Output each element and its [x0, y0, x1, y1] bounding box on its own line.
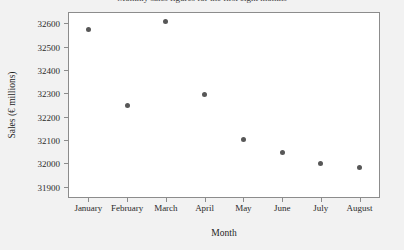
y-axis-tick: 32100: [64, 140, 69, 141]
data-point: [241, 137, 246, 142]
x-axis-tick-label: April: [195, 203, 214, 213]
plot-area: 3190032000321003220032300324003250032600…: [69, 13, 379, 197]
x-axis-tick-label: January: [74, 203, 102, 213]
x-axis-tick: [360, 197, 361, 202]
x-axis-tick-label: June: [274, 203, 291, 213]
data-point: [163, 19, 168, 24]
y-axis-tick-label: 31900: [38, 183, 61, 193]
x-axis-tick-label: August: [347, 203, 373, 213]
y-axis-title: Sales (€ millions): [7, 71, 17, 138]
x-axis-tick-label: March: [154, 203, 178, 213]
y-axis-tick-label: 32100: [38, 136, 61, 146]
data-point: [125, 103, 130, 108]
y-axis-tick-label: 32300: [38, 89, 61, 99]
x-axis-tick: [321, 197, 322, 202]
x-axis-tick: [205, 197, 206, 202]
x-axis-tick: [88, 197, 89, 202]
chart-title: Monthly sales figures for the first eigh…: [0, 0, 404, 3]
y-axis-tick-label: 32000: [38, 159, 61, 169]
scatter-chart: Monthly sales figures for the first eigh…: [0, 0, 404, 250]
x-axis-tick: [166, 197, 167, 202]
y-axis-tick-label: 32500: [38, 43, 61, 53]
y-axis-tick: 31900: [64, 187, 69, 188]
y-axis-tick-label: 32600: [38, 19, 61, 29]
y-axis-tick: 32500: [64, 47, 69, 48]
data-point: [86, 27, 91, 32]
x-axis-tick-label: July: [313, 203, 328, 213]
y-axis-tick: 32000: [64, 163, 69, 164]
x-axis-tick: [282, 197, 283, 202]
data-point: [202, 92, 207, 97]
data-point: [357, 165, 362, 170]
x-axis-tick-label: May: [235, 203, 252, 213]
plot-frame: 3190032000321003220032300324003250032600…: [68, 12, 380, 198]
y-axis-tick: 32200: [64, 117, 69, 118]
data-point: [318, 161, 323, 166]
y-axis-tick: 32600: [64, 23, 69, 24]
data-point: [280, 150, 285, 155]
y-axis-tick: 32400: [64, 70, 69, 71]
y-axis-tick-label: 32400: [38, 66, 61, 76]
y-axis-tick: 32300: [64, 93, 69, 94]
x-axis-tick: [243, 197, 244, 202]
x-axis-title: Month: [68, 228, 380, 238]
y-axis-tick-label: 32200: [38, 113, 61, 123]
x-axis-tick-label: February: [111, 203, 144, 213]
x-axis-tick: [127, 197, 128, 202]
